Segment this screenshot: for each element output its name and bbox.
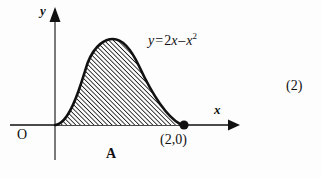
point-coordinate-label: (2,0) <box>160 133 187 147</box>
x-axis-arrowhead <box>228 120 240 131</box>
equation-minus: – <box>177 33 186 48</box>
curve-equation-label: y=2x–x2 <box>148 34 197 48</box>
figure-container: y x O (2,0) A y=2x–x2 (2) <box>0 0 321 179</box>
y-axis-arrowhead <box>50 7 61 22</box>
y-axis-label: y <box>40 4 46 17</box>
shaded-region-A <box>55 39 184 125</box>
equation-equals: = <box>154 33 164 48</box>
y-axis <box>50 7 61 160</box>
marks-allocation: (2) <box>286 79 302 93</box>
parabola-figure-svg <box>0 0 321 179</box>
point-marker-2-0 <box>179 120 188 129</box>
region-label-a: A <box>106 147 116 161</box>
x-axis-label: x <box>214 103 221 116</box>
origin-label: O <box>17 128 27 142</box>
equation-term2-exponent: 2 <box>193 31 198 41</box>
